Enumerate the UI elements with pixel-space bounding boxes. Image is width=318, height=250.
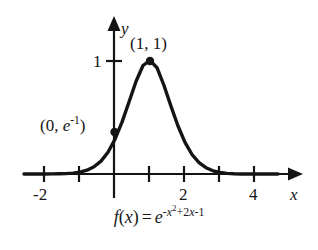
- equation-fn-arg: (x): [119, 207, 139, 227]
- equation-exponent: -x2+2x-1: [163, 205, 205, 219]
- y-intercept-point-marker: [110, 128, 118, 136]
- equation-base: e: [155, 207, 163, 227]
- x-axis-label: x: [290, 186, 298, 203]
- equation-equals: =: [139, 207, 155, 227]
- y-intercept-label-suffix: ): [80, 116, 86, 135]
- y-tick-label-1: 1: [93, 53, 102, 70]
- equation-caption: f(x)=e-x2+2x-1: [0, 208, 318, 226]
- y-intercept-point-label: (0, e-1): [40, 117, 86, 134]
- y-axis-label: y: [121, 20, 129, 37]
- y-axis-arrowhead-icon: [108, 16, 121, 31]
- x-tick-label-2: 2: [179, 186, 188, 203]
- peak-point-marker: [146, 57, 154, 65]
- function-graph-figure: y x 1 -2 2 4 (1, 1) (0, e-1) f(x)=e-x2+2…: [0, 0, 318, 250]
- x-axis-arrowhead-icon: [288, 168, 303, 181]
- equation-exponent-term-4: -1: [194, 205, 204, 219]
- x-tick-label--2: -2: [33, 186, 47, 203]
- y-intercept-label-prefix: (0,: [40, 116, 63, 135]
- peak-point-label: (1, 1): [130, 35, 167, 52]
- x-tick-label-4: 4: [249, 186, 258, 203]
- equation-exponent-term-1: -x: [163, 205, 172, 219]
- y-intercept-label-exponent: -1: [70, 114, 80, 127]
- equation-exponent-term-2: +2: [177, 205, 190, 219]
